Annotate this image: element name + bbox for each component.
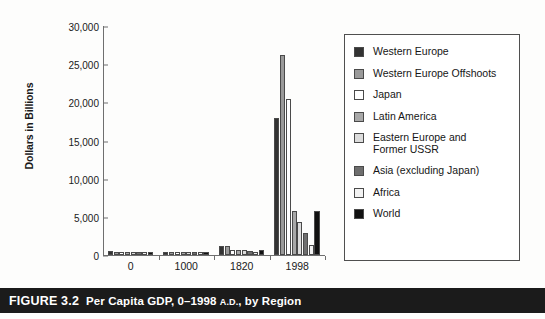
bar (125, 252, 130, 255)
y-axis-tick: 10,000 (68, 174, 103, 185)
bar-group (163, 26, 209, 255)
legend-label: Western Europe (373, 46, 449, 58)
bar (181, 252, 186, 255)
legend-item: Africa (354, 187, 511, 199)
bar (203, 252, 208, 255)
bar (192, 252, 197, 255)
y-axis-tick-label: 0 (93, 251, 103, 262)
legend-item: Eastern Europe and Former USSR (354, 132, 511, 155)
y-axis-tick-mark (103, 256, 108, 257)
x-axis-tick-mark (325, 256, 326, 260)
legend-item: Asia (excluding Japan) (354, 165, 511, 177)
legend-swatch-icon (354, 47, 364, 57)
x-axis-tick-mark (159, 256, 160, 260)
y-axis-tick: 0 (93, 251, 103, 262)
y-axis-tick-label: 15,000 (68, 136, 103, 147)
legend-label: Africa (373, 187, 400, 199)
figure-number: FIGURE 3.2 (9, 294, 79, 308)
bar (186, 252, 191, 255)
legend-swatch-icon (354, 133, 364, 143)
legend-swatch-icon (354, 69, 364, 79)
bar (225, 246, 230, 255)
y-axis-tick: 15,000 (68, 136, 103, 147)
bar-group (108, 26, 154, 255)
bar (297, 222, 302, 255)
y-axis-tick-label: 30,000 (68, 22, 103, 33)
bar (247, 251, 252, 255)
legend-swatch-icon (354, 90, 364, 100)
figure-caption-bar: FIGURE 3.2 Per Capita GDP, 0–1998 A.D., … (0, 288, 545, 313)
x-axis-tick-label: 1820 (230, 260, 253, 272)
legend-label: Asia (excluding Japan) (373, 165, 479, 177)
bar (274, 118, 279, 255)
bar (119, 252, 124, 255)
y-axis-tick-label: 10,000 (68, 174, 103, 185)
figure-title-main: Per Capita GDP, 0–1998 (86, 295, 216, 307)
figure-chart: Dollars in Billions 05,00010,00015,00020… (0, 0, 545, 283)
y-axis-tick: 5,000 (74, 212, 103, 223)
legend-item: World (354, 208, 511, 220)
bar (314, 211, 319, 255)
figure-title: Per Capita GDP, 0–1998 A.D., by Region (86, 295, 301, 307)
bar (236, 250, 241, 255)
y-axis-tick: 25,000 (68, 60, 103, 71)
legend-label: Japan (373, 89, 402, 101)
bar (280, 55, 285, 255)
bar (309, 245, 314, 255)
legend-item: Latin America (354, 111, 511, 123)
y-axis-title: Dollars in Billions (23, 61, 35, 191)
x-axis-tick-label: 1998 (286, 260, 309, 272)
bar (253, 252, 258, 255)
bar (259, 250, 264, 255)
legend-swatch-icon (354, 188, 364, 198)
bar-group (219, 26, 265, 255)
bar (114, 252, 119, 255)
legend-label: Western Europe Offshoots (373, 68, 496, 80)
legend-item: Western Europe (354, 46, 511, 58)
bar (108, 251, 113, 255)
y-axis-tick-label: 20,000 (68, 98, 103, 109)
legend-label: Latin America (373, 111, 437, 123)
plot-area: 05,00010,00015,00020,00025,00030,000 010… (103, 26, 325, 256)
legend-swatch-icon (354, 112, 364, 122)
bar (303, 233, 308, 255)
bar (219, 246, 224, 255)
x-axis-tick-mark (270, 256, 271, 260)
y-axis-tick-label: 25,000 (68, 60, 103, 71)
bar (163, 252, 168, 255)
x-axis-tick-mark (214, 256, 215, 260)
figure-title-tail: , by Region (238, 295, 301, 307)
bar (230, 250, 235, 255)
chart-legend: Western EuropeWestern Europe OffshootsJa… (344, 34, 520, 261)
bar (148, 252, 153, 255)
bar (136, 252, 141, 255)
bar (198, 252, 203, 255)
legend-swatch-icon (354, 166, 364, 176)
legend-label: World (373, 208, 400, 220)
bar (142, 252, 147, 255)
bar-group (274, 26, 320, 255)
figure-title-ad: A.D. (220, 297, 238, 307)
legend-item: Western Europe Offshoots (354, 68, 511, 80)
x-axis-tick-label: 1000 (175, 260, 198, 272)
y-axis-tick: 20,000 (68, 98, 103, 109)
bar (175, 252, 180, 255)
legend-label: Eastern Europe and Former USSR (373, 132, 466, 155)
y-axis-tick-label: 5,000 (74, 212, 103, 223)
legend-item: Japan (354, 89, 511, 101)
y-axis-tick: 30,000 (68, 22, 103, 33)
bar (286, 99, 291, 255)
bar (242, 250, 247, 255)
bar (292, 211, 297, 255)
legend-swatch-icon (354, 209, 364, 219)
bar (169, 252, 174, 255)
bar (131, 252, 136, 255)
x-axis-tick-label: 0 (128, 260, 134, 272)
